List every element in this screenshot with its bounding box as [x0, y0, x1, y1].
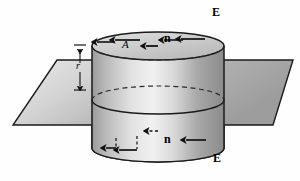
label-field-bottom-E: E — [213, 152, 221, 164]
label-normal-bottom-n: n — [164, 133, 171, 145]
label-radius-r: r — [76, 61, 80, 71]
label-area-A: A — [122, 39, 129, 50]
cylinder-body-front — [92, 46, 224, 162]
label-normal-top-n: n — [164, 32, 171, 44]
diagram-canvas — [0, 0, 300, 181]
physics-diagram-gauss-cylinder: A r n n E E — [0, 0, 300, 181]
cylinder-upper-half — [92, 32, 224, 162]
label-field-top-E: E — [212, 6, 220, 18]
